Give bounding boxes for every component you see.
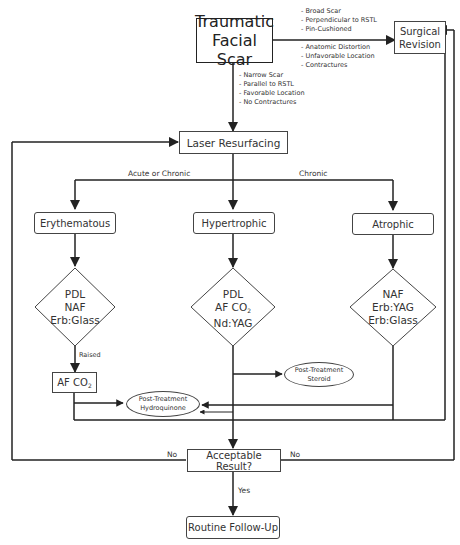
af-co2-main: AF CO xyxy=(57,377,88,388)
laser-label: Laser Resurfacing xyxy=(187,137,281,149)
criteria-item: - Pin-Cushioned xyxy=(301,25,377,34)
criteria-item: - Unfavorable Location xyxy=(301,52,375,61)
criteria-item: - Broad Scar xyxy=(301,7,377,16)
treatment-item: NAF xyxy=(358,288,428,301)
surgical-line1: Surgical xyxy=(399,25,441,38)
atrophic-label: Atrophic xyxy=(372,219,414,230)
branch-label-acute-chronic: Acute or Chronic xyxy=(128,169,190,178)
laser-resurfacing-box: Laser Resurfacing xyxy=(179,131,288,154)
criteria-item: - Parallel to RSTL xyxy=(239,80,305,89)
criteria-item: - No Contractures xyxy=(239,98,305,107)
af-co2-box: AF CO2 xyxy=(52,372,97,393)
treatment-sub: 2 xyxy=(247,307,251,314)
no-left-label: No xyxy=(167,450,177,459)
steroid-line2: Steroid xyxy=(295,375,343,384)
routine-follow-up-box: Routine Follow-Up xyxy=(186,516,280,539)
branch-label-chronic: Chronic xyxy=(299,169,327,178)
yes-label: Yes xyxy=(238,486,250,495)
atrophic-treatments: NAF Erb:YAG Erb:Glass xyxy=(358,288,428,327)
surgery-criteria-top: - Broad Scar - Perpendicular to RSTL - P… xyxy=(301,7,377,34)
surgical-revision-box: SurgicalRevision xyxy=(394,21,446,54)
treatment-item: AF CO2 xyxy=(198,301,268,317)
acceptable-result-box: Acceptable Result? xyxy=(187,449,281,472)
treatment-item: Erb:YAG xyxy=(358,301,428,314)
raised-label: Raised xyxy=(79,351,101,359)
hypertrophic-treatments: PDL AF CO2 Nd:YAG xyxy=(198,288,268,330)
treatment-item: Nd:YAG xyxy=(198,317,268,330)
start-line1: Traumatic xyxy=(195,12,274,31)
treatment-item: Erb:Glass xyxy=(358,314,428,327)
criteria-item: - Favorable Location xyxy=(239,89,305,98)
post-treatment-hydroquinone: Post-TreatmentHydroquinone xyxy=(126,391,200,417)
treatment-item: PDL xyxy=(40,288,110,301)
erythematous-box: Erythematous xyxy=(34,212,116,234)
treatment-main: AF CO xyxy=(215,301,247,313)
treatment-item: Erb:Glass xyxy=(40,314,110,327)
post-treatment-steroid: Post-TreatmentSteroid xyxy=(284,362,354,387)
steroid-line1: Post-Treatment xyxy=(295,366,343,375)
no-right-label: No xyxy=(290,450,300,459)
criteria-item: - Contractures xyxy=(301,61,375,70)
surgical-line2: Revision xyxy=(399,38,441,51)
acceptable-label: Acceptable Result? xyxy=(188,450,280,472)
criteria-item: - Anatomic Distortion xyxy=(301,43,375,52)
hypertrophic-label: Hypertrophic xyxy=(202,218,267,229)
af-co2-sub: 2 xyxy=(88,382,92,389)
erythematous-label: Erythematous xyxy=(40,218,110,229)
surgery-criteria-bottom: - Anatomic Distortion - Unfavorable Loca… xyxy=(301,43,375,70)
criteria-item: - Perpendicular to RSTL xyxy=(301,16,377,25)
traumatic-facial-scar-box: TraumaticFacial Scar xyxy=(196,18,273,63)
hydroquinone-line1: Post-Treatment xyxy=(139,395,187,404)
treatment-item: PDL xyxy=(198,288,268,301)
hydroquinone-line2: Hydroquinone xyxy=(139,404,187,413)
start-line2: Facial Scar xyxy=(195,31,274,69)
treatment-item: NAF xyxy=(40,301,110,314)
af-co2-label: AF CO2 xyxy=(57,377,91,389)
atrophic-box: Atrophic xyxy=(352,213,434,235)
criteria-item: - Narrow Scar xyxy=(239,71,305,80)
laser-criteria: - Narrow Scar - Parallel to RSTL - Favor… xyxy=(239,71,305,107)
hypertrophic-box: Hypertrophic xyxy=(193,212,275,234)
follow-up-label: Routine Follow-Up xyxy=(188,522,278,533)
erythematous-treatments: PDL NAF Erb:Glass xyxy=(40,288,110,327)
